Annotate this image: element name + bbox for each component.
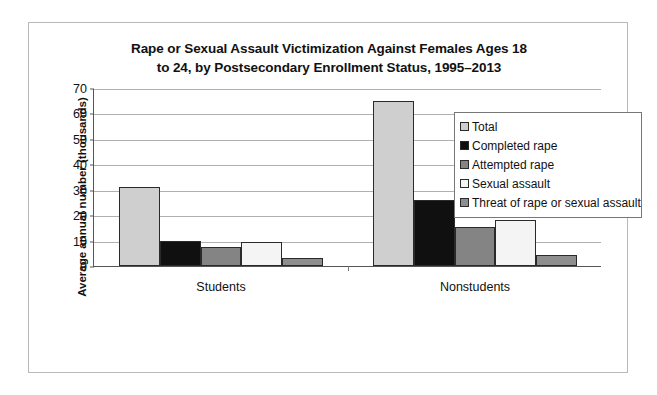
y-tick-label: 20 — [73, 209, 87, 223]
y-tick-label: 30 — [73, 184, 87, 198]
y-tick-label: 60 — [73, 107, 87, 121]
chart-title: Rape or Sexual Assault Victimization Aga… — [69, 39, 589, 77]
bar — [282, 258, 323, 266]
legend-item[interactable]: Threat of rape or sexual assault — [460, 193, 636, 212]
legend-item[interactable]: Attempted rape — [460, 155, 636, 174]
bar — [536, 255, 577, 266]
y-tick-label: 0 — [80, 260, 87, 274]
chart-legend: TotalCompleted rapeAttempted rapeSexual … — [454, 112, 642, 218]
y-tick-label: 70 — [73, 82, 87, 96]
bar — [414, 200, 455, 266]
legend-item[interactable]: Sexual assault — [460, 174, 636, 193]
y-tick-label: 10 — [73, 235, 87, 249]
legend-item-label: Completed rape — [472, 139, 557, 153]
chart-title-line-1: Rape or Sexual Assault Victimization Aga… — [69, 39, 589, 58]
y-tick-label: 40 — [73, 158, 87, 172]
legend-swatch-icon — [460, 198, 469, 207]
legend-item[interactable]: Completed rape — [460, 136, 636, 155]
legend-item-label: Attempted rape — [472, 158, 554, 172]
bar — [373, 101, 414, 266]
y-tick-label: 50 — [73, 133, 87, 147]
legend-item-label: Total — [472, 120, 497, 134]
legend-item-label: Threat of rape or sexual assault — [472, 196, 641, 210]
legend-item-label: Sexual assault — [472, 177, 550, 191]
legend-item[interactable]: Total — [460, 117, 636, 136]
x-axis-category-label: Students — [196, 280, 245, 294]
legend-swatch-icon — [460, 179, 469, 188]
chart-frame: Rape or Sexual Assault Victimization Aga… — [28, 22, 628, 373]
y-tick-mark — [90, 267, 94, 268]
bar — [119, 187, 160, 266]
legend-swatch-icon — [460, 141, 469, 150]
x-axis-tick — [348, 266, 349, 271]
x-axis-category-label: Nonstudents — [440, 280, 510, 294]
legend-swatch-icon — [460, 122, 469, 131]
bar — [241, 242, 282, 266]
chart-title-line-2: to 24, by Postsecondary Enrollment Statu… — [69, 58, 589, 77]
bar — [201, 247, 242, 266]
bar — [495, 220, 536, 266]
bar — [160, 241, 201, 266]
bar — [455, 227, 496, 266]
legend-swatch-icon — [460, 160, 469, 169]
